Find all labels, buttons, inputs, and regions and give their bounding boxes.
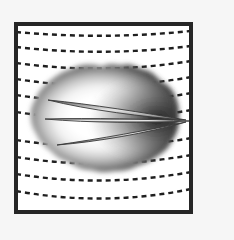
figure-root: Micrograph illustration of lobed cell bo…: [0, 0, 234, 240]
scientific-figure-canvas: [0, 0, 234, 240]
